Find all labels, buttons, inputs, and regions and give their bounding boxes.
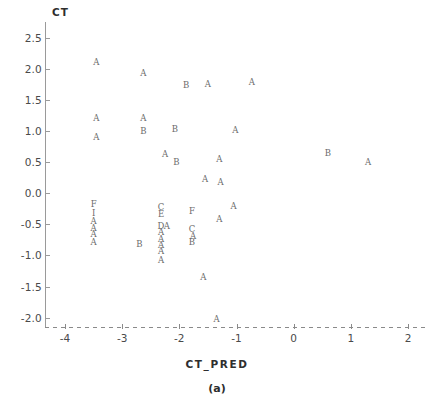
x-tick-label: -2: [164, 332, 194, 344]
data-point-marker: F: [187, 206, 197, 216]
data-point-marker: A: [203, 79, 213, 89]
figure-caption: (a): [0, 382, 434, 395]
data-point-marker: A: [247, 77, 257, 87]
y-tick-mark: [45, 38, 50, 39]
data-point-marker: E: [156, 209, 166, 219]
data-point-marker: A: [91, 113, 101, 123]
data-point-marker: A: [89, 237, 99, 247]
x-tick-label: 2: [393, 332, 423, 344]
y-axis-title: CT: [52, 6, 69, 18]
y-tick-mark: [45, 318, 50, 319]
data-point-marker: B: [171, 157, 181, 167]
y-tick-label: 0.0: [25, 187, 42, 199]
data-point-marker: A: [229, 201, 239, 211]
y-tick-label: -2.0: [21, 312, 42, 324]
data-point-marker: A: [156, 255, 166, 265]
y-tick-label: 2.5: [25, 32, 42, 44]
x-tick-label: 0: [279, 332, 309, 344]
x-tick-label: -1: [222, 332, 252, 344]
x-tick-label: -4: [50, 332, 80, 344]
data-point-marker: A: [200, 174, 210, 184]
y-tick-mark: [45, 162, 50, 163]
data-point-marker: A: [91, 132, 101, 142]
data-point-marker: A: [214, 214, 224, 224]
data-point-marker: A: [211, 314, 221, 324]
x-tick-label: -3: [107, 332, 137, 344]
data-point-marker: B: [323, 148, 333, 158]
data-point-marker: A: [138, 113, 148, 123]
y-tick-label: -0.5: [21, 218, 42, 230]
data-point-marker: B: [181, 80, 191, 90]
y-tick-mark: [45, 287, 50, 288]
y-tick-label: -1.5: [21, 281, 42, 293]
x-tick-mark: [408, 324, 409, 329]
x-axis-title: CT_PRED: [0, 358, 434, 370]
data-point-marker: A: [138, 68, 148, 78]
y-tick-mark: [45, 100, 50, 101]
x-tick-mark: [294, 324, 295, 329]
data-point-marker: A: [160, 149, 170, 159]
y-tick-label: 1.5: [25, 94, 42, 106]
y-tick-mark: [45, 69, 50, 70]
x-tick-mark: [122, 324, 123, 329]
data-point-marker: B: [138, 126, 148, 136]
data-point-marker: B: [134, 239, 144, 249]
scatter-plot-figure: CT -2.0-1.5-1.0-0.50.00.51.01.52.02.5 -4…: [0, 0, 434, 405]
data-point-marker: A: [363, 157, 373, 167]
x-tick-mark: [179, 324, 180, 329]
y-tick-mark: [45, 255, 50, 256]
data-point-marker: B: [187, 237, 197, 247]
x-tick-label: 1: [336, 332, 366, 344]
data-point-marker: A: [91, 57, 101, 67]
data-point-marker: A: [230, 125, 240, 135]
data-point-marker: A: [198, 272, 208, 282]
x-tick-mark: [65, 324, 66, 329]
x-tick-mark: [351, 324, 352, 329]
y-tick-label: 0.5: [25, 156, 42, 168]
y-tick-mark: [45, 131, 50, 132]
y-tick-label: -1.0: [21, 249, 42, 261]
y-tick-mark: [45, 193, 50, 194]
data-point-marker: A: [215, 177, 225, 187]
y-tick-label: 1.0: [25, 125, 42, 137]
y-tick-mark: [45, 224, 50, 225]
data-point-marker: B: [170, 124, 180, 134]
y-tick-label: 2.0: [25, 63, 42, 75]
x-tick-mark: [237, 324, 238, 329]
data-point-marker: A: [214, 154, 224, 164]
